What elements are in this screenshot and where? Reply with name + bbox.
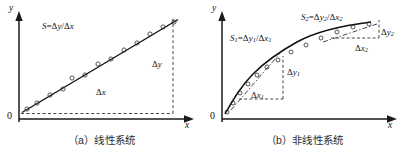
tangent-line-2 bbox=[323, 24, 377, 42]
slope-formula-1-label: S1=Δy1/Δx1 bbox=[230, 34, 271, 44]
data-point bbox=[335, 30, 339, 34]
slope-formula-label-a: S=Δy/Δx bbox=[42, 22, 74, 31]
origin-label-b: 0 bbox=[210, 111, 215, 121]
axes-group bbox=[19, 19, 186, 122]
caption-nonlinear-system: （b）非线性系统 bbox=[203, 132, 406, 147]
figure-container: 0 y x S=Δy/Δx Δy Δx （a）线性系统 bbox=[0, 0, 406, 158]
delta-y-2-label: Δy2 bbox=[381, 28, 394, 38]
caption-linear-system: （a）线性系统 bbox=[0, 132, 203, 147]
y-axis-arrowhead bbox=[15, 11, 22, 21]
plot-linear-system bbox=[0, 0, 203, 132]
y-axis-label-b: y bbox=[212, 4, 216, 14]
delta-x-label-a: Δx bbox=[96, 88, 106, 97]
data-point bbox=[96, 62, 100, 66]
data-point bbox=[70, 76, 74, 80]
delta-y-1-label: Δy1 bbox=[287, 68, 300, 78]
delta-y-label-a: Δy bbox=[152, 60, 162, 69]
slope-formula-2-label: S2=Δy2/Δx2 bbox=[301, 13, 342, 23]
delta-x-1-label: Δx1 bbox=[251, 91, 264, 101]
data-point bbox=[319, 36, 323, 40]
y-axis-arrowhead bbox=[218, 11, 225, 21]
panel-linear-system: 0 y x S=Δy/Δx Δy Δx （a）线性系统 bbox=[0, 0, 203, 158]
delta-x-2-label: Δx2 bbox=[355, 44, 368, 54]
y-axis-label-a: y bbox=[9, 4, 13, 14]
x-axis-label-a: x bbox=[185, 121, 189, 131]
origin-label-a: 0 bbox=[7, 111, 12, 121]
tangent-line-1 bbox=[231, 52, 281, 110]
data-point bbox=[289, 50, 293, 54]
x-axis-label-b: x bbox=[388, 121, 392, 131]
data-point bbox=[246, 82, 250, 86]
data-point bbox=[255, 73, 259, 77]
panel-nonlinear-system: 0 y x S1=Δy1/Δx1 S2=Δy2/Δx2 Δy1 Δx1 Δy2 … bbox=[203, 0, 406, 158]
data-point bbox=[351, 25, 355, 29]
data-point bbox=[276, 58, 280, 62]
data-point bbox=[304, 43, 308, 47]
data-point bbox=[238, 91, 242, 95]
